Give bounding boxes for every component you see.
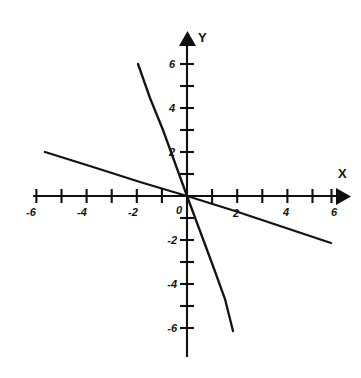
x-axis-label: X [338,166,347,181]
origin-label: 0 [176,204,183,216]
y-axis-label: Y [198,30,207,45]
y-tick-label-6: 6 [169,58,176,70]
x-tick-label-4: 4 [282,206,289,218]
x-tick-label--4: -4 [77,206,87,218]
x-tick-label-6: 6 [331,206,338,218]
y-tick-label-4: 4 [168,102,175,114]
y-tick-label--6: -6 [167,322,178,334]
coordinate-plane-figure: Y X -6 -4 -2 2 4 6 6 4 2 -2 -4 -6 0 [0,0,361,378]
y-tick-label--2: -2 [167,234,177,246]
x-tick-label--6: -6 [26,206,37,218]
line-steep-negative-slope [138,64,233,331]
y-tick-label-2: 2 [168,146,175,158]
graph-canvas: Y X -6 -4 -2 2 4 6 6 4 2 -2 -4 -6 0 [0,0,361,378]
y-axis-arrow-icon [179,31,196,46]
x-tick-label--2: -2 [128,206,138,218]
x-tick-label-2: 2 [232,207,239,219]
x-axis-arrow-icon [336,188,351,205]
y-tick-label--4: -4 [167,278,177,290]
